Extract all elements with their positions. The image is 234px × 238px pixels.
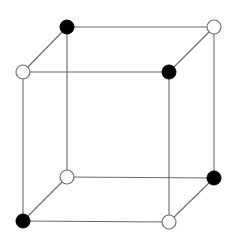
edge-back-bottom-left-to-front-bottom-left [23,177,67,221]
vertex-back-top-right-white-circle-icon [207,20,221,34]
vertex-front-top-right-black-circle-icon [162,65,176,79]
edge-back-top-left-to-front-top-left [23,27,67,72]
edge-front-bottom-left-to-front-bottom-right [23,221,169,222]
vertex-back-bottom-right-black-circle-icon [207,171,221,185]
vertex-back-top-left-black-circle-icon [60,20,74,34]
vertex-back-bottom-left-white-circle-icon [60,170,74,184]
edge-back-top-right-to-front-top-right [169,27,214,72]
edge-back-bottom-left-to-back-bottom-right [67,177,214,178]
vertex-front-bottom-left-black-circle-icon [16,214,30,228]
edge-back-bottom-right-to-front-bottom-right [169,178,214,222]
cube-edges [23,27,214,222]
cube-diagram [0,0,234,238]
vertex-front-bottom-right-white-circle-icon [162,215,176,229]
vertex-front-top-left-white-circle-icon [16,65,30,79]
